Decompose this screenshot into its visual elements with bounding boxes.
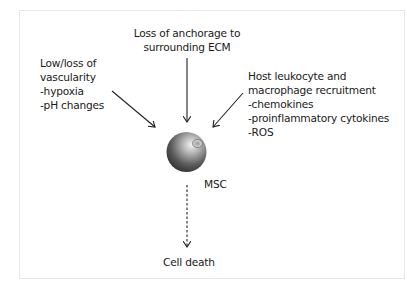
- sphere-cell-icon: [167, 132, 207, 172]
- nucleus-icon: [193, 140, 203, 148]
- arrow-left-to-cell: [112, 91, 155, 127]
- arrow-right-to-cell: [213, 93, 243, 127]
- diagram-canvas: [0, 0, 407, 286]
